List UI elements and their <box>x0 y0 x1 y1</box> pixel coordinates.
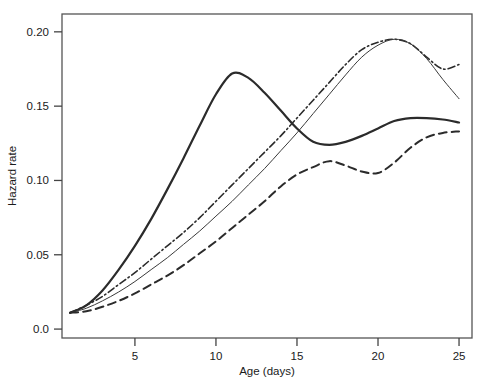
series-line-series-3 <box>70 39 459 312</box>
data-series-group <box>70 39 459 312</box>
y-axis-title: Hazard rate <box>6 146 18 206</box>
x-tick-label: 5 <box>132 350 138 362</box>
hazard-rate-chart: 0.00.050.100.150.20 510152025 Age (days)… <box>0 0 488 390</box>
x-tick-label: 10 <box>210 350 223 362</box>
y-tick-label: 0.20 <box>27 26 49 38</box>
x-tick-label: 15 <box>291 350 304 362</box>
y-tick-label: 0.15 <box>27 100 49 112</box>
series-line-series-2 <box>70 39 459 312</box>
x-axis-ticks: 510152025 <box>132 338 466 362</box>
y-axis-ticks: 0.00.050.100.150.20 <box>27 26 62 335</box>
x-tick-label: 20 <box>372 350 385 362</box>
y-tick-label: 0.0 <box>33 323 49 335</box>
x-tick-label: 25 <box>453 350 466 362</box>
y-tick-label: 0.05 <box>27 249 49 261</box>
x-axis-title: Age (days) <box>239 365 295 377</box>
y-tick-label: 0.10 <box>27 174 49 186</box>
chart-canvas: 0.00.050.100.150.20 510152025 Age (days)… <box>0 0 488 390</box>
